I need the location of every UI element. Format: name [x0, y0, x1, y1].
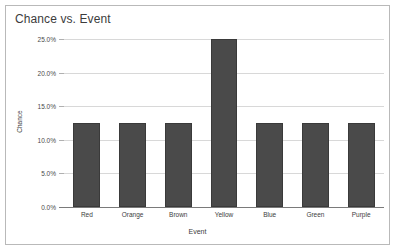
bar-brown[interactable] — [165, 123, 192, 207]
x-axis-tick-label-yellow: Yellow — [215, 211, 234, 218]
bar-orange[interactable] — [119, 123, 146, 207]
chart-frame: Chance vs. Event Chance 0.0%5.0%10.0%15.… — [5, 5, 390, 245]
y-axis-tick-label: 25.0% — [38, 36, 56, 43]
y-axis-tick-mark — [59, 207, 64, 208]
x-axis-tick-label-green: Green — [306, 211, 324, 218]
y-axis-tick-mark — [59, 73, 64, 74]
y-axis-tick-mark — [59, 173, 64, 174]
y-axis-tick-label: 10.0% — [38, 136, 56, 143]
x-axis-tick-label-red: Red — [81, 211, 93, 218]
plot-area: 0.0%5.0%10.0%15.0%20.0%25.0% RedOrangeBr… — [64, 39, 384, 207]
bar-purple[interactable] — [348, 123, 375, 207]
bar-yellow[interactable] — [211, 39, 238, 207]
y-axis-tick-label: 5.0% — [41, 170, 56, 177]
x-axis-tick-label-orange: Orange — [122, 211, 144, 218]
y-axis-tick-label: 15.0% — [38, 103, 56, 110]
y-axis-tick-mark — [59, 39, 64, 40]
x-axis-title: Event — [6, 228, 389, 235]
y-axis-tick-mark — [59, 140, 64, 141]
bar-red[interactable] — [73, 123, 100, 207]
y-axis-tick-label: 0.0% — [41, 204, 56, 211]
chart-title: Chance vs. Event — [15, 12, 111, 26]
bar-blue[interactable] — [256, 123, 283, 207]
bar-green[interactable] — [302, 123, 329, 207]
x-axis-tick-label-brown: Brown — [169, 211, 187, 218]
x-axis-tick-label-blue: Blue — [263, 211, 276, 218]
axis-baseline — [64, 207, 384, 208]
y-axis-tick-label: 20.0% — [38, 69, 56, 76]
y-axis-title: Chance — [16, 92, 23, 152]
y-axis-tick-mark — [59, 106, 64, 107]
x-axis-tick-label-purple: Purple — [352, 211, 371, 218]
